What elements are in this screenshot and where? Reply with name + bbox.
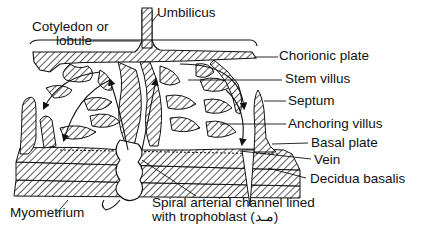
label-chorionic-plate: Chorionic plate	[279, 49, 369, 63]
septum-left	[20, 97, 36, 154]
label-spiral-artery-line1: Spiral arterial channel lined	[152, 196, 315, 210]
label-basal-plate: Basal plate	[311, 136, 378, 150]
label-anchoring-villus: Anchoring villus	[288, 117, 383, 131]
label-myometrium: Myometrium	[10, 206, 84, 220]
label-spiral-artery-line2: with trophoblast (مـد)	[152, 210, 278, 224]
label-decidua-basalis: Decidua basalis	[310, 172, 405, 186]
umbilical-cord	[142, 8, 152, 48]
villous-tree-right	[196, 60, 242, 137]
label-lobule: lobule	[56, 34, 92, 48]
label-cotyledon: Cotyledon or	[32, 20, 109, 34]
label-stem-villus: Stem villus	[285, 72, 350, 86]
label-vein: Vein	[314, 153, 340, 167]
label-umbilicus: Umbilicus	[157, 6, 216, 20]
label-septum: Septum	[288, 94, 335, 108]
anchoring-villus-left	[40, 116, 56, 148]
label-cotyledon-line1: Cotyledon or	[32, 20, 109, 34]
villous-tree-center	[98, 62, 200, 146]
septum-right	[254, 90, 276, 152]
